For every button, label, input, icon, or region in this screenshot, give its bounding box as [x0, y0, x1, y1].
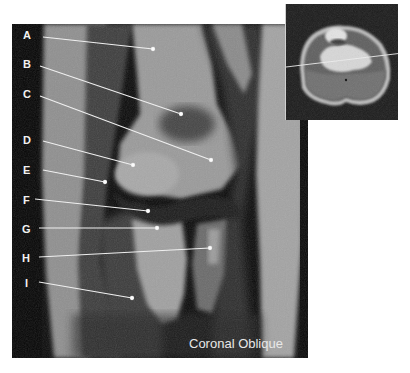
label-g: G	[22, 223, 31, 235]
label-e: E	[23, 164, 30, 176]
pointer-line-i	[39, 282, 132, 298]
pointer-line-a	[43, 37, 153, 49]
label-b: B	[23, 58, 31, 70]
pointer-line-c	[40, 96, 211, 160]
label-a: A	[23, 29, 31, 41]
label-f: F	[23, 194, 30, 206]
pointer-line-b	[40, 66, 181, 114]
axial-reference-inset	[285, 4, 398, 120]
mri-figure: A B C D E F G H I Coronal Oblique	[0, 0, 410, 373]
label-c: C	[23, 88, 31, 100]
label-i: I	[25, 277, 28, 289]
pointer-line-d	[43, 141, 133, 165]
pointer-line-f	[35, 199, 148, 211]
pointer-line-e	[43, 170, 105, 182]
label-d: D	[23, 134, 31, 146]
pointer-line-h	[39, 248, 210, 257]
label-h: H	[22, 252, 30, 264]
axial-slice-illustration	[286, 4, 398, 120]
